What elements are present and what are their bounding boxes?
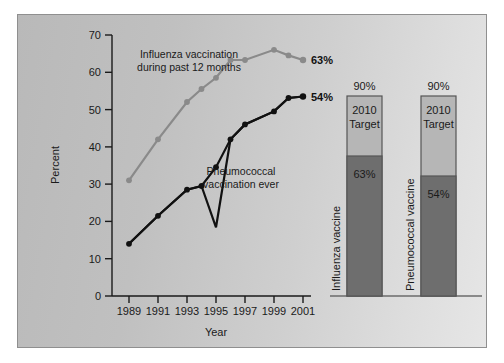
x-tick-labels: 1989 1991 1993 1995 1997 1999 2001 [117,305,315,317]
y-tick-50: 50 [89,104,101,116]
data-point [300,57,306,63]
data-point [184,187,190,193]
y-tick-20: 20 [89,215,101,227]
data-point [213,75,219,81]
pneumococcal-annotation-line2: vaccination ever [203,178,279,190]
y-axis [105,35,112,296]
bar-influenza-target-line1: 2010 [352,104,376,116]
data-point [271,47,277,53]
bar-influenza-value-label: 63% [353,168,375,180]
figure-panel: 70 60 50 40 30 20 10 0 Percent 1989 1991… [17,14,487,348]
y-axis-title: Percent [49,146,61,184]
influenza-endpoint-label: 63% [311,54,333,66]
bar-pneumococcal-target-line1: 2010 [426,104,450,116]
x-axis [112,296,311,303]
y-tick-70: 70 [89,29,101,41]
data-point [126,241,132,247]
data-point [228,136,234,142]
bar-pneumococcal-value-label: 54% [427,188,449,200]
data-point [184,99,190,105]
data-point [155,136,161,142]
data-point [242,57,248,63]
y-tick-0: 0 [95,290,101,302]
vaccination-chart: 70 60 50 40 30 20 10 0 Percent 1989 1991… [18,15,488,349]
data-point [199,86,205,92]
x-tick-1991: 1991 [146,305,170,317]
data-point [126,177,132,183]
influenza-annotation-line2: during past 12 months [137,61,241,73]
x-tick-1999: 1999 [262,305,286,317]
y-tick-60: 60 [89,66,101,78]
bar-pneumococcal-target-line2: Target [423,118,454,130]
data-point [300,93,306,99]
data-point [271,109,277,115]
y-tick-40: 40 [89,141,101,153]
data-point [286,95,292,101]
bar-influenza-category-label: Influenza vaccine [330,206,342,291]
y-tick-30: 30 [89,178,101,190]
bar-pneumococcal-target-label: 90% [427,80,449,92]
bar-influenza-vaccine: 90% 2010 Target 63% Influenza vaccine [330,80,382,296]
y-tick-10: 10 [89,253,101,265]
x-tick-2001: 2001 [291,305,315,317]
data-point [286,53,292,59]
x-tick-1995: 1995 [204,305,228,317]
influenza-annotation-line1: Influenza vaccination [140,48,238,60]
x-tick-1989: 1989 [117,305,141,317]
data-point [155,213,161,219]
data-point [242,122,248,128]
x-axis-title: Year [205,326,228,338]
bar-influenza-target-label: 90% [353,80,375,92]
bar-pneumococcal-vaccine: 90% 2010 Target 54% Pneumococcal vaccine [404,80,456,296]
bar-influenza-target-line2: Target [349,118,380,130]
x-tick-1997: 1997 [233,305,257,317]
x-tick-1993: 1993 [175,305,199,317]
bar-pneumococcal-category-label: Pneumococcal vaccine [404,178,416,291]
y-tick-labels: 70 60 50 40 30 20 10 0 [89,29,101,302]
pneumococcal-annotation-line1: Pneumococcal [207,165,276,177]
pneumococcal-endpoint-label: 54% [311,91,333,103]
